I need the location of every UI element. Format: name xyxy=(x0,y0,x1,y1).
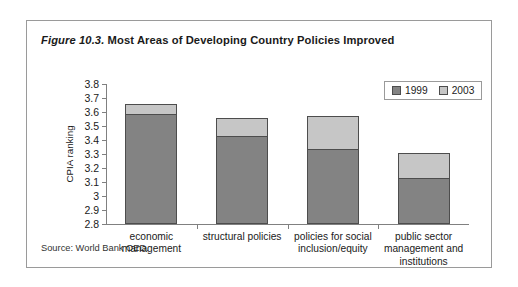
y-tick-label: 3.3 xyxy=(84,148,99,160)
bar-1[interactable] xyxy=(125,104,177,224)
legend-label-2003: 2003 xyxy=(452,85,475,96)
y-tick-label: 3.7 xyxy=(84,92,99,104)
x-axis-tick xyxy=(197,224,198,229)
legend-label-1999: 1999 xyxy=(405,85,428,96)
y-tick-label: 2.9 xyxy=(84,204,99,216)
legend-swatch-1999 xyxy=(392,86,401,95)
page-title: Figure 10.3. Most Areas of Developing Co… xyxy=(41,34,394,46)
plot-area: 3.83.73.63.53.43.33.23.132.92.8 xyxy=(106,84,469,224)
y-tick-label: 2.8 xyxy=(84,218,99,230)
figure-frame: Figure 10.3. Most Areas of Developing Co… xyxy=(26,20,492,268)
x-axis-category-label: policies for social inclusion/equity xyxy=(288,231,379,256)
y-axis-title: CPIA ranking xyxy=(64,125,75,182)
y-tick-mark xyxy=(102,140,106,141)
y-tick-label: 3.2 xyxy=(84,162,99,174)
x-axis-category-label: economic management xyxy=(106,231,197,256)
y-tick-mark xyxy=(102,126,106,127)
bar-4[interactable] xyxy=(398,153,450,224)
y-tick-label: 3 xyxy=(93,190,99,202)
figure-number: Figure 10.3. xyxy=(41,34,104,46)
y-tick-label: 3.6 xyxy=(84,106,99,118)
y-tick-label: 3.5 xyxy=(84,120,99,132)
y-tick-mark xyxy=(102,84,106,85)
y-tick-mark xyxy=(102,210,106,211)
bar-segment-1999[interactable] xyxy=(217,136,267,223)
x-axis-tick xyxy=(288,224,289,229)
x-axis-category-label: public sector management and institution… xyxy=(378,231,469,268)
x-axis-tick xyxy=(378,224,379,229)
bar-segment-1999[interactable] xyxy=(399,178,449,223)
legend-swatch-2003 xyxy=(439,86,448,95)
legend-entry-1999: 1999 xyxy=(392,85,428,96)
chart-legend: 1999 2003 xyxy=(384,81,482,100)
x-axis-category-label: structural policies xyxy=(197,231,288,243)
y-tick-label: 3.1 xyxy=(84,176,99,188)
bar-segment-1999[interactable] xyxy=(126,114,176,223)
y-tick-mark xyxy=(102,196,106,197)
y-tick-label: 3.8 xyxy=(84,78,99,90)
y-tick-mark xyxy=(102,182,106,183)
legend-entry-2003: 2003 xyxy=(439,85,475,96)
y-tick-mark xyxy=(102,224,106,225)
y-tick-mark xyxy=(102,154,106,155)
y-tick-mark xyxy=(102,112,106,113)
bar-2[interactable] xyxy=(216,118,268,224)
bar-segment-1999[interactable] xyxy=(308,149,358,223)
figure-caption: Most Areas of Developing Country Policie… xyxy=(108,34,395,46)
y-tick-mark xyxy=(102,168,106,169)
y-tick-mark xyxy=(102,98,106,99)
y-tick-label: 3.4 xyxy=(84,134,99,146)
bar-3[interactable] xyxy=(307,116,359,224)
